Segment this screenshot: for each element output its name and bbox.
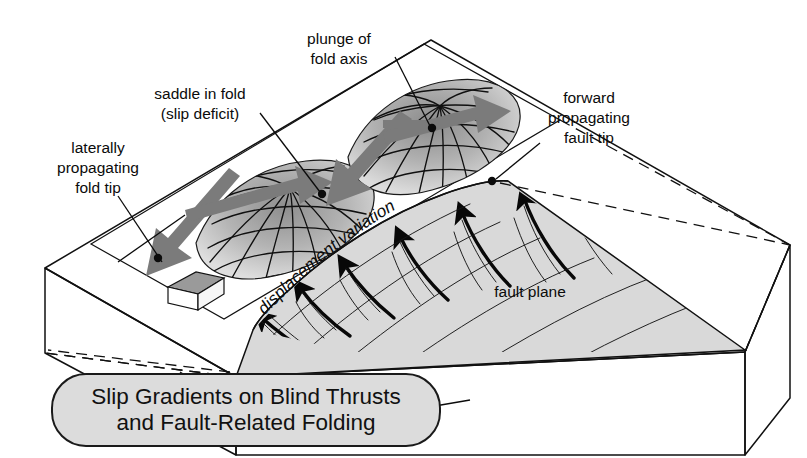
label-plunge-of-fold-axis: plunge of fold axis <box>307 30 371 67</box>
label-laterally-propagating-fold-tip: laterally propagating fold tip <box>57 139 139 196</box>
svg-text:fault plane: fault plane <box>494 283 566 300</box>
svg-text:propagating: propagating <box>57 159 139 176</box>
svg-text:forward: forward <box>563 89 615 106</box>
dot-lateral-fold-tip <box>154 254 162 262</box>
block-right-face <box>745 245 790 455</box>
title-line-2: and Fault-Related Folding <box>117 410 376 435</box>
svg-text:saddle in fold: saddle in fold <box>154 85 245 102</box>
svg-text:fold tip: fold tip <box>75 179 121 196</box>
svg-text:laterally: laterally <box>71 139 125 156</box>
dot-forward-fault-tip <box>488 177 496 185</box>
svg-text:fold axis: fold axis <box>311 50 368 67</box>
svg-text:plunge of: plunge of <box>307 30 371 47</box>
title-box: Slip Gradients on Blind Thrusts and Faul… <box>52 374 440 446</box>
label-saddle-in-fold: saddle in fold (slip deficit) <box>154 85 245 122</box>
svg-text:propagating: propagating <box>548 109 630 126</box>
block-diagram-svg: plunge of fold axis saddle in fold (slip… <box>0 0 807 458</box>
label-forward-propagating-fault-tip: forward propagating fault tip <box>548 89 630 146</box>
label-fault-plane: fault plane <box>494 283 566 300</box>
title-line-1: Slip Gradients on Blind Thrusts <box>91 384 401 409</box>
dot-fold-axis <box>428 124 436 132</box>
dot-saddle <box>318 190 326 198</box>
svg-text:fault tip: fault tip <box>564 129 614 146</box>
figure-canvas: plunge of fold axis saddle in fold (slip… <box>0 0 807 458</box>
svg-text:(slip deficit): (slip deficit) <box>161 105 239 122</box>
house-scale-marker <box>168 272 224 310</box>
